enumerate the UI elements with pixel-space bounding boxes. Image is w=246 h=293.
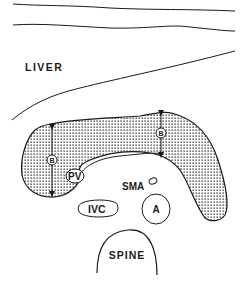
- abdominal-wall-outer-line: [13, 4, 235, 11]
- diagram-canvas: LIVER PV B B SMA IVC A SPINE: [0, 0, 246, 293]
- aorta-label: A: [152, 204, 159, 215]
- body-measurement-label: B: [158, 130, 163, 137]
- spine-label: SPINE: [109, 249, 146, 261]
- pv-label: PV: [68, 171, 82, 182]
- abdominal-wall-inner-line: [13, 24, 235, 31]
- sma-vessel: [148, 177, 158, 185]
- liver-label: LIVER: [25, 61, 63, 73]
- head-measurement-label: B: [49, 157, 54, 164]
- sma-label: SMA: [122, 181, 144, 192]
- ivc-label: IVC: [88, 203, 106, 215]
